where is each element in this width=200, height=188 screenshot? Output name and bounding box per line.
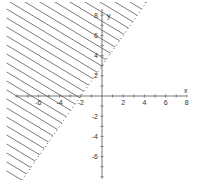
x-tick-label: 8 [185,99,189,106]
y-tick-label: 6 [94,32,98,39]
y-tick-label: -4 [92,133,98,140]
x-tick-label: 6 [164,99,168,106]
shaded-region [0,0,200,188]
x-tick-label: -4 [56,99,62,106]
x-tick-label: -2 [78,99,84,106]
inequality-graph: -6-4-224688642-2-4-6xy [0,0,200,188]
y-tick-label: 8 [94,12,98,19]
x-tick-label: 2 [121,99,125,106]
tick-labels: -6-4-224688642-2-4-6xy [35,12,189,160]
y-axis-label: y [107,12,111,20]
y-tick-label: 4 [94,52,98,59]
y-tick-label: -2 [92,113,98,120]
y-tick-label: 2 [94,72,98,79]
x-axis-label: x [184,87,188,94]
x-tick-label: -6 [35,99,41,106]
y-tick-label: -6 [92,153,98,160]
x-tick-label: 4 [142,99,146,106]
